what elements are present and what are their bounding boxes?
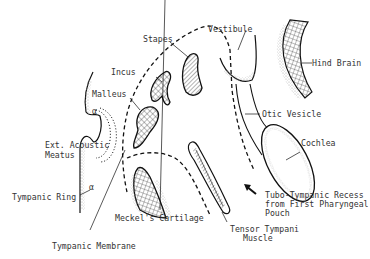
diagram-canvas: α α Stapes Vestibule Hind Brain Incus Ma… (0, 0, 370, 259)
label-otic-vesicle: Otic Vesicle (262, 109, 321, 119)
tympanic-cavity-outline (123, 26, 254, 192)
ear-development-diagram: α α Stapes Vestibule Hind Brain Incus Ma… (0, 0, 370, 259)
label-stapes: Stapes (143, 34, 173, 44)
ext-acoustic-meatus-canal (96, 110, 110, 158)
incus-shape (151, 71, 171, 104)
label-hind-brain: Hind Brain (312, 58, 361, 68)
label-cochlea: Cochlea (301, 138, 336, 148)
label-tubo-recess-3: Pouch (265, 208, 290, 218)
malleus-shape (133, 107, 158, 148)
label-malleus: Malleus (92, 89, 127, 99)
label-incus: Incus (111, 67, 136, 77)
label-ext-acoustic-2: Meatus (45, 150, 75, 160)
label-tympanic-ring: Tympanic Ring (12, 192, 76, 202)
label-meckels-cartilage: Meckel's Cartilage (115, 213, 204, 223)
label-tympanic-membrane: Tympanic Membrane (52, 241, 136, 251)
tympanic-ring-glyph-upper: α (92, 106, 97, 116)
hind-brain-shape (283, 20, 312, 98)
label-ext-acoustic-1: Ext. Acoustic (45, 140, 109, 150)
label-tensor-tympani-2: Muscle (243, 233, 273, 243)
stapes-shape (183, 54, 202, 96)
label-vestibule: Vestibule (208, 24, 252, 34)
